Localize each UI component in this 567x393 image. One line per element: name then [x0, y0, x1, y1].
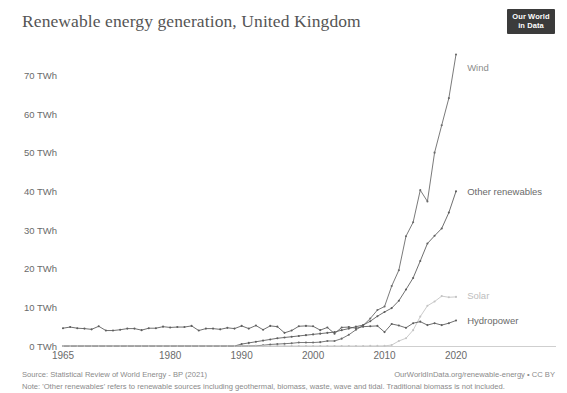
data-point: [191, 325, 193, 327]
source-note: Source: Statistical Review of World Ener…: [22, 370, 207, 379]
data-point: [319, 345, 321, 347]
series-label-hydropower: Hydropower: [467, 315, 518, 326]
data-point: [405, 337, 407, 339]
data-point: [133, 328, 135, 330]
data-point: [326, 326, 328, 328]
data-point: [383, 306, 385, 308]
data-point: [148, 345, 150, 347]
data-point: [312, 325, 314, 327]
data-point: [412, 221, 414, 223]
data-point: [434, 235, 436, 237]
data-point: [326, 340, 328, 342]
data-point: [183, 345, 185, 347]
data-point: [434, 152, 436, 154]
x-tick-label: 2000: [302, 350, 325, 361]
data-point: [398, 324, 400, 326]
y-tick-label: 70 TWh: [24, 70, 57, 81]
data-point: [255, 345, 257, 347]
data-point: [162, 345, 164, 347]
data-point: [441, 324, 443, 326]
data-point: [426, 305, 428, 307]
data-point: [441, 124, 443, 126]
data-point: [205, 328, 207, 330]
data-point: [434, 300, 436, 302]
data-point: [376, 345, 378, 347]
data-point: [448, 322, 450, 324]
data-point: [176, 326, 178, 328]
data-point: [62, 327, 64, 329]
data-point: [255, 324, 257, 326]
data-point: [426, 242, 428, 244]
data-point: [269, 345, 271, 347]
data-point: [76, 345, 78, 347]
data-point: [341, 338, 343, 340]
data-point: [69, 326, 71, 328]
data-point: [369, 317, 371, 319]
data-point: [441, 295, 443, 297]
data-point: [448, 296, 450, 298]
data-point: [419, 189, 421, 191]
data-point: [241, 345, 243, 347]
data-point: [298, 341, 300, 343]
data-point: [369, 345, 371, 347]
data-point: [405, 327, 407, 329]
series-line-solar: [63, 296, 456, 346]
data-point: [76, 327, 78, 329]
data-point: [369, 320, 371, 322]
data-point: [291, 345, 293, 347]
data-point: [426, 200, 428, 202]
data-point: [455, 319, 457, 321]
data-point: [305, 325, 307, 327]
data-point: [362, 326, 364, 328]
data-point: [298, 335, 300, 337]
data-point: [291, 329, 293, 331]
y-tick-label: 30 TWh: [24, 225, 57, 236]
data-point: [262, 345, 264, 347]
data-point: [305, 334, 307, 336]
data-point: [119, 329, 121, 331]
data-point: [391, 344, 393, 346]
data-point: [441, 227, 443, 229]
data-point: [326, 345, 328, 347]
data-point: [355, 345, 357, 347]
data-point: [291, 342, 293, 344]
data-point: [119, 345, 121, 347]
data-point: [269, 325, 271, 327]
data-point: [383, 345, 385, 347]
data-point: [155, 327, 157, 329]
data-point: [312, 341, 314, 343]
data-point: [226, 345, 228, 347]
data-point: [212, 345, 214, 347]
chart-page: Renewable energy generation, United King…: [0, 0, 567, 393]
data-point: [98, 345, 100, 347]
data-point: [255, 341, 257, 343]
data-point: [434, 322, 436, 324]
data-point: [298, 325, 300, 327]
y-tick-label: 20 TWh: [24, 263, 57, 274]
data-point: [319, 333, 321, 335]
data-point: [91, 328, 93, 330]
data-point: [212, 328, 214, 330]
series-labels: WindOther renewablesSolarHydropower: [467, 62, 542, 326]
data-point: [319, 329, 321, 331]
data-point: [276, 337, 278, 339]
data-point: [283, 343, 285, 345]
data-point: [362, 345, 364, 347]
data-point: [348, 334, 350, 336]
data-point: [133, 345, 135, 347]
owid-url[interactable]: OurWorldInData.org/renewable-energy • CC…: [394, 370, 555, 379]
data-point: [283, 345, 285, 347]
data-point: [312, 345, 314, 347]
data-point: [305, 345, 307, 347]
y-tick-label: 10 TWh: [24, 302, 57, 313]
data-point: [341, 326, 343, 328]
data-point: [426, 324, 428, 326]
data-point: [398, 340, 400, 342]
data-point: [305, 341, 307, 343]
data-point: [376, 325, 378, 327]
data-point: [62, 345, 64, 347]
data-point: [276, 326, 278, 328]
data-point: [248, 342, 250, 344]
data-point: [91, 345, 93, 347]
data-point: [248, 345, 250, 347]
